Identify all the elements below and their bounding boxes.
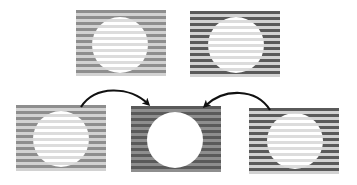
striped-rect-medium-circle-striped	[76, 10, 166, 76]
panel-top-right	[190, 11, 280, 77]
circle	[92, 17, 148, 73]
circle	[208, 17, 264, 73]
panel-top-left	[76, 10, 166, 76]
panel-bottom-right	[249, 108, 339, 174]
striped-rect-dark-circle-striped	[190, 11, 280, 77]
striped-rect-dark-circle-striped	[249, 108, 339, 174]
circle	[147, 112, 203, 168]
panel-bottom-left	[16, 105, 106, 171]
circle	[267, 113, 323, 169]
striped-rect-medium-circle-striped	[16, 105, 106, 171]
panel-bottom-center	[131, 106, 221, 172]
striped-rect-dark-medium-circle-white	[131, 106, 221, 172]
circle	[33, 111, 89, 167]
